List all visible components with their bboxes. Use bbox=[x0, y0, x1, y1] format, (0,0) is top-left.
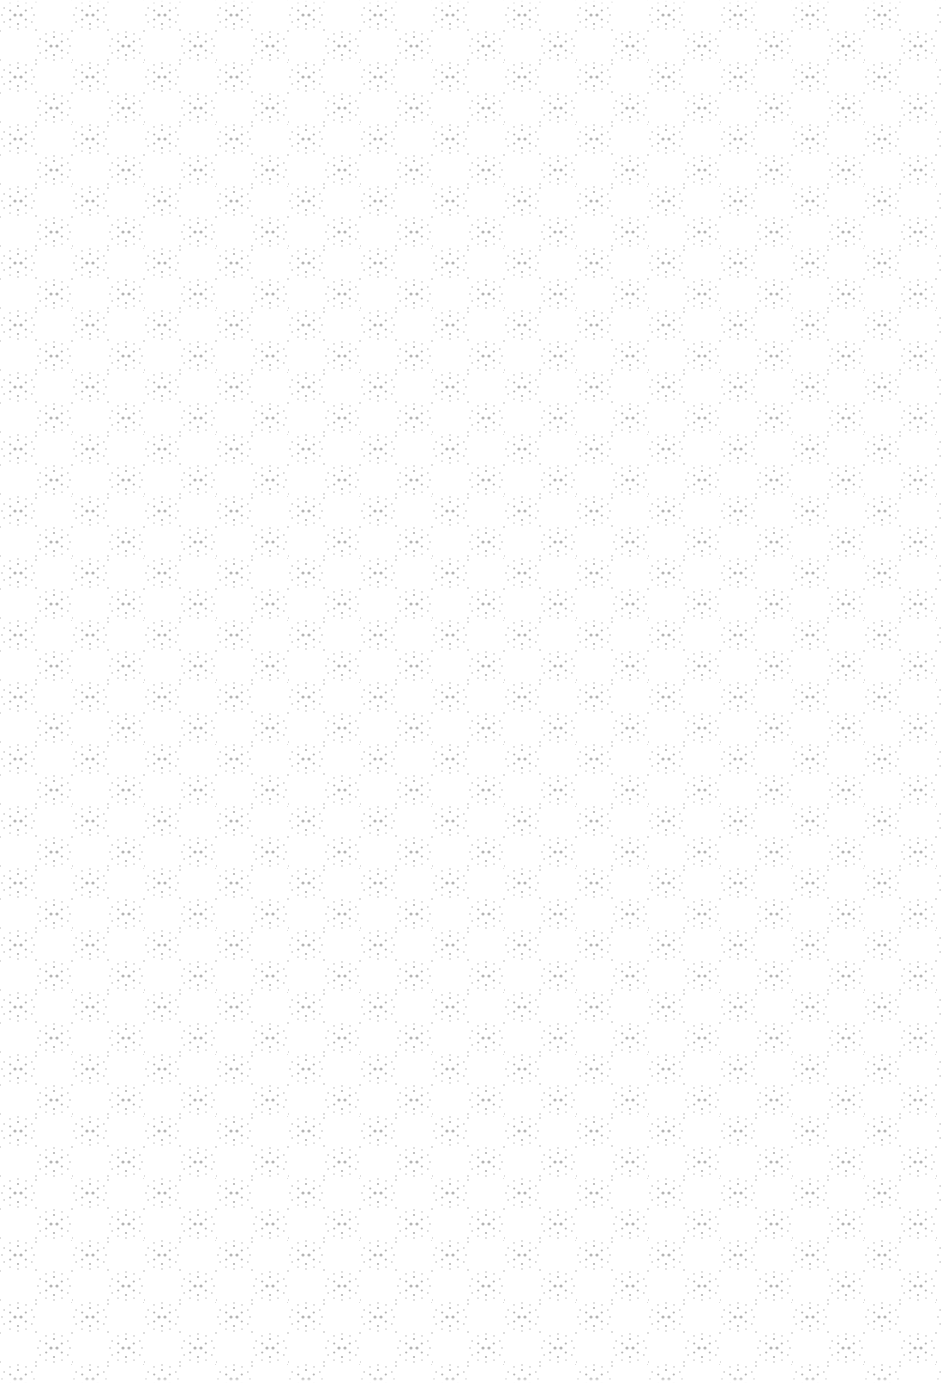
pattern-fill bbox=[0, 0, 944, 1383]
dot-pattern-canvas bbox=[0, 0, 944, 1383]
top-edge-fade bbox=[0, 0, 944, 6]
dotted-pattern-background bbox=[0, 0, 944, 1383]
bottom-edge-fade bbox=[0, 1377, 944, 1383]
